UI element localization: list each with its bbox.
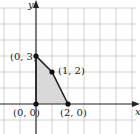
vertex-label-0-0: (0, 0) (13, 107, 40, 118)
vertex-1-2 (49, 69, 54, 74)
vertex-label-1-2: (1, 2) (58, 65, 85, 76)
graph: y x (0, 3) (1, 2) (0, 0) (2, 0) (0, 0, 140, 134)
vertex-0-0 (33, 101, 38, 106)
vertex-label-0-3: (0, 3) (10, 51, 37, 62)
vertex-2-0 (65, 101, 70, 106)
y-axis-arrow-icon (33, 0, 39, 8)
vertex-label-2-0: (2, 0) (60, 107, 87, 118)
y-axis-label: y (27, 0, 34, 10)
x-axis-label: x (135, 106, 140, 117)
